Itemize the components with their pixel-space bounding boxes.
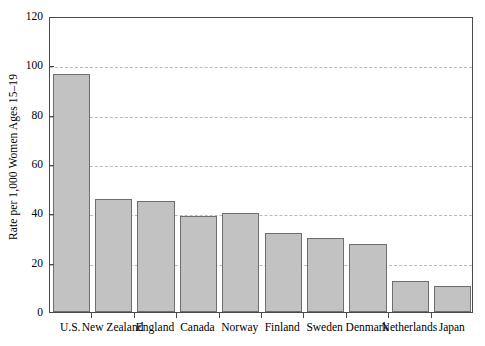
x-tick-label: Japan [419,320,485,334]
x-tick-mark [346,313,347,318]
bar [95,199,132,312]
x-tick-mark [219,313,220,318]
bar [434,286,471,312]
bar [222,213,259,312]
y-tick-label: 120 [3,11,43,23]
y-tick-mark [49,214,54,215]
x-tick-label: U.S. [37,320,103,334]
y-tick-mark [49,66,54,67]
plot-area [49,17,473,313]
gridline [50,67,472,68]
y-tick-label: 80 [3,110,43,122]
y-axis-title: Rate per 1,000 Women Ages 15–19 [0,0,26,313]
gridline [50,166,472,167]
x-tick-mark [431,313,432,318]
x-tick-mark [134,313,135,318]
x-tick-mark [388,313,389,318]
x-axis-tick-labels: U.S.New ZealandEnglandCanadaNorwayFinlan… [0,320,485,340]
x-tick-label: England [122,320,188,334]
y-tick-label: 60 [3,159,43,171]
x-tick-label: Denmark [334,320,400,334]
y-tick-mark [49,264,54,265]
y-axis-title-text: Rate per 1,000 Women Ages 15–19 [7,73,19,239]
x-tick-mark [176,313,177,318]
y-tick-label: 40 [3,209,43,221]
y-tick-label: 0 [3,307,43,319]
x-tick-mark [91,313,92,318]
y-tick-label: 20 [3,258,43,270]
bar [137,201,174,312]
x-tick-label: Canada [164,320,230,334]
x-tick-mark [261,313,262,318]
bar [180,216,217,312]
y-tick-label: 100 [3,61,43,73]
y-tick-mark [49,165,54,166]
bar [392,281,429,312]
bar [53,74,90,312]
bar [265,233,302,312]
y-axis-tick-labels: 020406080100120 [0,0,43,346]
x-tick-label: Finland [249,320,315,334]
x-tick-label: Netherlands [376,320,442,334]
x-tick-label: New Zealand [79,320,145,334]
x-tick-label: Sweden [291,320,357,334]
gridline [50,117,472,118]
x-tick-label: Norway [207,320,273,334]
bar [349,244,386,312]
x-tick-mark [303,313,304,318]
x-axis-tick-marks [0,313,485,321]
bar-chart: Rate per 1,000 Women Ages 15–19 02040608… [0,0,485,346]
y-tick-mark [49,116,54,117]
bar [307,238,344,312]
